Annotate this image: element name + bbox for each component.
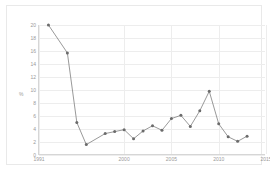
series-markers xyxy=(47,24,249,147)
x-tick-label: 2000 xyxy=(119,157,130,162)
data-point xyxy=(217,122,220,125)
data-point xyxy=(189,125,192,128)
data-point xyxy=(104,132,107,135)
data-series-layer xyxy=(39,25,266,155)
data-point xyxy=(236,140,239,143)
y-tick-label: 2 xyxy=(33,140,36,145)
y-tick-label: 10 xyxy=(30,88,36,93)
data-point xyxy=(151,124,154,127)
data-point xyxy=(160,129,163,132)
data-point xyxy=(208,90,211,93)
data-point xyxy=(246,135,249,138)
y-axis-title: % xyxy=(19,92,23,97)
x-gridline xyxy=(266,25,267,154)
data-point xyxy=(179,114,182,117)
x-tick-label: 2015 xyxy=(260,157,270,162)
data-point xyxy=(47,24,50,27)
data-point xyxy=(66,51,69,54)
data-point xyxy=(123,128,126,131)
y-tick-label: 4 xyxy=(33,127,36,132)
y-tick-label: 16 xyxy=(30,49,36,54)
line-chart: 02468101214161820 19912000200520102015 % xyxy=(0,0,270,173)
data-point xyxy=(227,135,230,138)
data-point xyxy=(75,121,78,124)
data-point xyxy=(132,137,135,140)
chart-frame: 02468101214161820 19912000200520102015 % xyxy=(6,5,262,165)
x-tick-label: 2005 xyxy=(166,157,177,162)
plot-area: 02468101214161820 19912000200520102015 xyxy=(38,25,265,155)
data-point xyxy=(85,143,88,146)
data-point xyxy=(170,117,173,120)
y-gridline xyxy=(39,155,265,156)
x-tick-label: 1991 xyxy=(33,157,44,162)
series-line xyxy=(48,25,247,145)
data-point xyxy=(142,129,145,132)
x-tick-label: 2010 xyxy=(213,157,224,162)
data-point xyxy=(113,130,116,133)
y-tick-label: 20 xyxy=(30,23,36,28)
y-tick-label: 6 xyxy=(33,114,36,119)
y-tick-label: 18 xyxy=(30,36,36,41)
y-tick-label: 8 xyxy=(33,101,36,106)
data-point xyxy=(198,109,201,112)
y-tick-label: 14 xyxy=(30,62,36,67)
y-tick-label: 12 xyxy=(30,75,36,80)
